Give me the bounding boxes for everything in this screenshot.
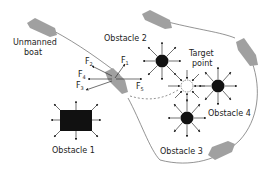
obstacle-3 (168, 99, 206, 137)
label-target: Target (188, 49, 214, 58)
boat-top (142, 10, 172, 29)
boat-bottom (208, 141, 235, 160)
boat-right (236, 38, 258, 66)
label-point: point (192, 59, 212, 68)
force-label-2: F2 (85, 57, 93, 67)
label-obstacle-3: Obstacle 3 (160, 147, 203, 156)
obstacle-1 (51, 101, 101, 140)
target-point (168, 70, 205, 102)
force-label-1: F1 (121, 56, 129, 66)
label-obstacle-1: Obstacle 1 (52, 146, 95, 155)
label-unmanned: Unmanned (13, 38, 57, 47)
label-obstacle-2: Obstacle 2 (104, 34, 147, 43)
label-obstacle-4: Obstacle 4 (208, 109, 251, 118)
force-label-4: F4 (78, 70, 86, 80)
boat-start (27, 18, 57, 37)
force-label-5: F5 (136, 82, 144, 92)
boat-current (105, 68, 128, 94)
label-boat: boat (24, 48, 42, 57)
force-label-3: F3 (76, 81, 84, 91)
potential-field-diagram: F1 F2 F4 F3 F5 (0, 0, 275, 179)
